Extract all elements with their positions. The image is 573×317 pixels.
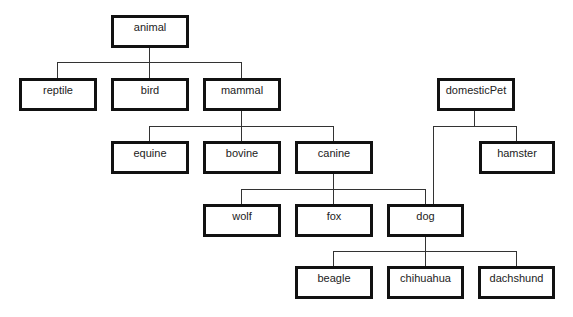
node-label: reptile: [43, 84, 73, 96]
connector-beagle: [333, 251, 334, 266]
connector-dog: [425, 189, 426, 204]
node-label: animal: [134, 21, 166, 33]
node-label: dachshund: [490, 272, 544, 284]
connector-hamster: [516, 126, 517, 141]
connector-animal-stem: [149, 48, 150, 63]
connector-mammal-stem: [241, 111, 242, 127]
node-label: chihuahua: [400, 272, 451, 284]
node-reptile: reptile: [19, 78, 97, 111]
connector-mammal: [241, 62, 242, 78]
node-label: bovine: [226, 147, 258, 159]
node-label: bird: [141, 84, 159, 96]
connector-canine: [333, 126, 334, 141]
node-label: beagle: [317, 272, 350, 284]
connector-chihuahua: [425, 251, 426, 266]
node-label: fox: [327, 210, 342, 222]
node-label: equine: [133, 147, 166, 159]
connector-bovine: [241, 126, 242, 141]
connector-dog-stem: [425, 237, 426, 252]
node-beagle: beagle: [295, 266, 373, 299]
connector-wolf: [241, 189, 242, 204]
node-label: canine: [318, 147, 350, 159]
connector-equine: [149, 126, 150, 141]
connector-fox: [333, 189, 334, 204]
node-label: hamster: [497, 147, 537, 159]
hierarchy-diagram: animal reptile bird mammal domesticPet e…: [0, 0, 573, 317]
connector-domesticpet-dog: [433, 126, 434, 204]
node-fox: fox: [295, 204, 373, 237]
node-domesticpet: domesticPet: [437, 78, 515, 111]
node-mammal: mammal: [203, 78, 281, 111]
node-canine: canine: [295, 141, 373, 174]
node-label: domesticPet: [446, 84, 507, 96]
node-bird: bird: [111, 78, 189, 111]
node-wolf: wolf: [203, 204, 281, 237]
node-dachshund: dachshund: [478, 266, 555, 299]
connector-bird: [149, 62, 150, 78]
node-label: mammal: [221, 84, 263, 96]
node-bovine: bovine: [203, 141, 281, 174]
node-label: wolf: [232, 210, 252, 222]
connector-domesticpet-stem: [474, 111, 475, 127]
node-animal: animal: [111, 15, 189, 48]
connector-domesticpet-bar: [433, 126, 517, 127]
connector-reptile: [57, 62, 58, 78]
node-equine: equine: [111, 141, 189, 174]
connector-canine-stem: [333, 174, 334, 190]
node-chihuahua: chihuahua: [387, 266, 464, 299]
node-hamster: hamster: [479, 141, 555, 174]
connector-dachshund: [516, 251, 517, 266]
node-label: dog: [416, 210, 434, 222]
node-dog: dog: [387, 204, 464, 237]
